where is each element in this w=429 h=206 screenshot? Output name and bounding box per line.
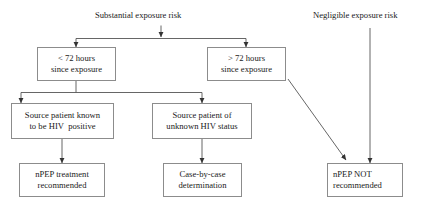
node-line-1: Case-by-case <box>179 169 225 180</box>
node-npep-not-recommended[interactable]: nPEP NOT recommended <box>327 163 403 197</box>
label-substantial-exposure-risk: Substantial exposure risk <box>95 10 181 21</box>
node-line-2: since exposure <box>221 64 272 75</box>
npep-decision-flowchart: Substantial exposure risk Negligible exp… <box>0 0 429 206</box>
node-line-1: nPEP treatment <box>35 169 89 180</box>
node-line-1: nPEP NOT <box>333 169 372 180</box>
node-less-than-72-hours[interactable]: < 72 hours since exposure <box>37 47 116 81</box>
node-line-2: recommended <box>38 180 87 191</box>
node-line-2: to be HIV positive <box>29 121 95 132</box>
edge-gt72-to-npep-not <box>288 79 346 160</box>
node-line-2: unknown HIV status <box>166 121 237 132</box>
node-line-2: determination <box>179 180 227 191</box>
node-line-1: Source patient known <box>25 110 100 121</box>
node-line-2: recommended <box>333 180 382 191</box>
label-negligible-exposure-risk: Negligible exposure risk <box>313 10 398 21</box>
node-line-1: > 72 hours <box>228 53 265 64</box>
node-source-patient-known-hiv-positive[interactable]: Source patient known to be HIV positive <box>11 103 114 139</box>
node-case-by-case-determination[interactable]: Case-by-case determination <box>163 163 242 197</box>
node-line-1: Source patient of <box>172 110 231 121</box>
node-line-2: since exposure <box>51 64 102 75</box>
node-npep-treatment-recommended[interactable]: nPEP treatment recommended <box>19 163 105 197</box>
node-source-patient-unknown-hiv-status[interactable]: Source patient of unknown HIV status <box>152 103 252 139</box>
node-line-1: < 72 hours <box>58 53 95 64</box>
node-greater-than-72-hours[interactable]: > 72 hours since exposure <box>207 47 286 81</box>
